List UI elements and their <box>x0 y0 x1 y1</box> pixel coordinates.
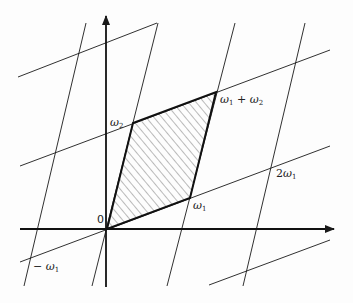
omega-symbol: ω <box>110 116 119 129</box>
two-omega1-label: 2ω1 <box>276 168 296 181</box>
subscript: 2 <box>259 99 263 107</box>
minus-sign: − <box>33 260 46 273</box>
omega-symbol: ω <box>250 93 259 106</box>
coefficient: 2 <box>276 167 283 180</box>
minus-omega1-label: − ω1 <box>33 261 59 274</box>
omega-symbol: ω <box>193 199 202 212</box>
subscript: 2 <box>119 122 123 130</box>
lattice-line-shallow-2 <box>18 23 157 77</box>
lattice-svg <box>0 0 353 303</box>
subscript: 1 <box>292 173 296 181</box>
omega-symbol: ω <box>283 167 292 180</box>
omega1-plus-omega2-label: ω1 + ω2 <box>220 94 263 107</box>
omega2-label: ω2 <box>110 117 123 130</box>
omega-symbol: ω <box>46 260 55 273</box>
lattice-line-shallow-minus1 <box>209 240 330 285</box>
subscript: 1 <box>202 205 206 213</box>
omega-symbol: ω <box>220 93 229 106</box>
plus-sign: + <box>233 93 249 106</box>
lattice-diagram: 0 ω1 ω2 ω1 + ω2 2ω1 − ω1 <box>0 0 353 303</box>
omega1-label: ω1 <box>193 200 206 213</box>
origin-label: 0 <box>97 214 104 225</box>
subscript: 1 <box>55 266 59 274</box>
